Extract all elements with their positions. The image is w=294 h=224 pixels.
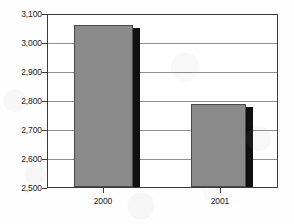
y-axis-tick-label: 2,900 <box>2 67 42 77</box>
bar-2000-body <box>74 25 133 187</box>
bar-2001[interactable] <box>191 104 253 187</box>
bar-2001-body <box>191 104 246 187</box>
plot-area <box>47 14 278 188</box>
y-axis-tick-label: 2,800 <box>2 96 42 106</box>
bar-chart-figure: 3,100 3,000 2,900 2,800 2,700 2,600 2,50… <box>0 0 294 224</box>
y-axis-tick-label: 2,700 <box>2 125 42 135</box>
y-axis-tick-label: 3,000 <box>2 38 42 48</box>
bar-2001-shadow <box>246 107 253 187</box>
x-axis-tick-mark <box>103 188 104 193</box>
y-axis-tick-label: 2,600 <box>2 154 42 164</box>
y-axis-tick-label: 3,100 <box>2 9 42 19</box>
y-axis-tick-mark <box>42 188 47 189</box>
y-axis-tick-label: 2,500 <box>2 183 42 193</box>
x-axis-label-2001: 2001 <box>190 196 250 206</box>
bar-2000[interactable] <box>74 25 140 187</box>
bar-2000-shadow <box>133 28 140 187</box>
x-axis-tick-mark <box>220 188 221 193</box>
x-axis-label-2000: 2000 <box>73 196 133 206</box>
chart-title-cropped <box>150 0 294 4</box>
